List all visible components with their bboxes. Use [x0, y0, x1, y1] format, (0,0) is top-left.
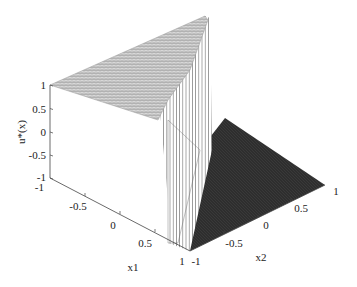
- surface-plot: 1 0.5 0 -0.5 -1 u*(x) -1 -0.5 0 0.5 1 x1…: [0, 0, 357, 287]
- x2-tick-label: 0: [263, 219, 269, 231]
- z-tick-label: -0.5: [29, 149, 47, 161]
- x2-tick-label: 0.5: [294, 202, 308, 214]
- z-tick-label: 0.5: [32, 103, 46, 115]
- x1-tick-label: 0: [110, 219, 116, 231]
- x2-tick-label: -0.5: [225, 237, 243, 249]
- x2-axis-title: x2: [256, 251, 267, 263]
- x2-tick-label: -1: [191, 255, 200, 267]
- z-tick-label: 0: [41, 126, 47, 138]
- x1-tick-label: -0.5: [69, 200, 87, 212]
- z-axis-title: u*(x): [15, 120, 28, 144]
- x1-tick-label: 1: [179, 255, 185, 267]
- z-tick-label: 1: [41, 79, 47, 91]
- x1-tick-label: 0.5: [138, 237, 152, 249]
- x1-axis-title: x1: [128, 261, 139, 273]
- x1-tick-label: -1: [35, 181, 44, 193]
- z-ticks: [50, 85, 53, 179]
- x1-ticks: [85, 193, 155, 232]
- x2-tick-label: 1: [333, 185, 339, 197]
